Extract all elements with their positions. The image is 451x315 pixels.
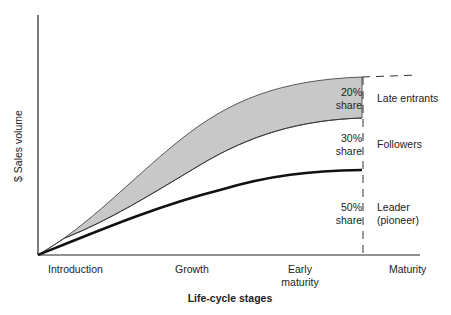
x-tick-maturity-sub: maturity xyxy=(275,276,325,289)
x-tick-maturity: Maturity xyxy=(389,263,426,276)
share-50-word: share xyxy=(330,214,362,227)
leader-label: Leader xyxy=(377,201,410,214)
y-axis-label: $ Sales volume xyxy=(12,106,24,186)
late-entrants-label: Late entrants xyxy=(377,92,438,105)
x-axis-title: Life-cycle stages xyxy=(160,292,300,304)
x-tick-growth: Growth xyxy=(175,263,209,276)
x-tick-introduction: Introduction xyxy=(48,263,103,276)
share-20-word: share xyxy=(330,99,362,112)
share-30-word: share xyxy=(330,145,362,158)
leader-line xyxy=(38,170,362,255)
share-20-pct: 20% xyxy=(330,86,362,99)
dashed-extension xyxy=(362,75,418,77)
x-tick-early: Early xyxy=(280,263,320,276)
share-30-pct: 30% xyxy=(330,132,362,145)
followers-label: Followers xyxy=(377,138,422,151)
share-50-pct: 50% xyxy=(330,201,362,214)
pioneer-label: (pioneer) xyxy=(377,214,419,227)
